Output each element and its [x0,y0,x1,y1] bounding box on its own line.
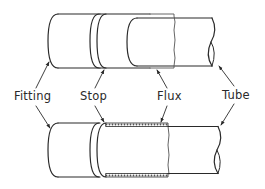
arrow-stop-bottom [95,106,104,122]
top-assembly [48,14,215,68]
arrow-tube-top [219,66,234,86]
top-stop-ring [90,14,150,68]
arrow-flux-bottom [161,106,167,122]
leader-arrows [36,62,234,128]
arrow-tube-bottom [221,104,234,125]
bottom-assembly [48,123,221,177]
label-stop: Stop [80,91,107,103]
top-tube [127,14,215,68]
arrow-fitting-bottom [36,106,50,128]
label-tube: Tube [222,90,250,102]
bottom-tube [168,127,221,174]
label-flux: Flux [157,91,182,103]
arrow-stop-top [95,70,104,88]
bottom-flux-coating [106,123,169,177]
arrow-flux-top [157,70,167,88]
label-fitting: Fitting [14,91,51,103]
arrow-fitting-top [36,62,49,88]
bottom-stop-ring [90,123,106,177]
